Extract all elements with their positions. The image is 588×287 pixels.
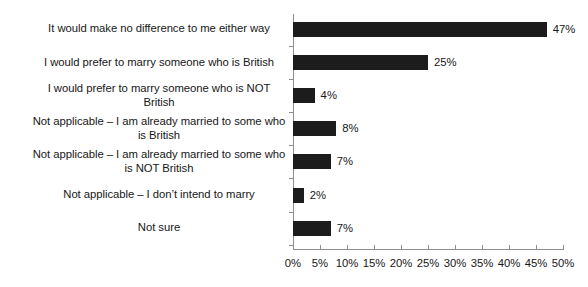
y-axis-tick — [289, 212, 294, 213]
bar-value-label: 25% — [434, 54, 457, 70]
category-label: I would prefer to marry someone who is N… — [29, 81, 289, 109]
x-axis-tick-label: 0% — [285, 257, 301, 270]
bar — [293, 154, 331, 169]
bar-fill — [293, 121, 336, 136]
x-axis-tick-label: 25% — [417, 257, 440, 270]
x-axis-tick — [509, 245, 510, 250]
x-axis-tick — [374, 245, 375, 250]
x-axis-tick — [563, 245, 564, 250]
bar — [293, 22, 547, 37]
x-axis-tick — [536, 245, 537, 250]
bar — [293, 188, 304, 203]
y-axis-tick — [289, 145, 294, 146]
bar-fill — [293, 88, 315, 103]
x-axis-tick-label: 35% — [471, 257, 494, 270]
category-label: Not sure — [29, 220, 289, 234]
bar-value-label: 7% — [337, 153, 353, 169]
bar — [293, 221, 331, 236]
category-label: It would make no difference to me either… — [29, 21, 289, 35]
bar-fill — [293, 154, 331, 169]
category-label: I would prefer to marry someone who is B… — [29, 55, 289, 69]
x-axis-tick-label: 40% — [498, 257, 521, 270]
bar-value-label: 2% — [310, 187, 326, 203]
y-axis-tick — [289, 112, 294, 113]
category-label: Not applicable – I am already married to… — [29, 114, 289, 142]
x-axis-tick-label: 30% — [444, 257, 467, 270]
bar-fill — [293, 188, 304, 203]
bar-value-label: 4% — [321, 87, 337, 103]
bar-fill — [293, 221, 331, 236]
bar-fill — [293, 22, 547, 37]
horizontal-bar-chart: 0%5%10%15%20%25%30%35%40%45%50%47%It wou… — [0, 0, 588, 287]
x-axis-tick — [347, 245, 348, 250]
bar-value-label: 47% — [553, 21, 576, 37]
x-axis-tick — [428, 245, 429, 250]
x-axis-tick — [455, 245, 456, 250]
category-label: Not applicable – I don’t intend to marry — [29, 187, 289, 201]
x-axis-tick-label: 20% — [390, 257, 413, 270]
bar-fill — [293, 55, 428, 70]
x-axis-tick-label: 5% — [312, 257, 328, 270]
y-axis-tick — [289, 46, 294, 47]
bar — [293, 121, 336, 136]
x-axis-tick — [320, 245, 321, 250]
y-axis-tick — [289, 245, 294, 246]
x-axis-tick — [401, 245, 402, 250]
bar-value-label: 7% — [337, 220, 353, 236]
bar — [293, 88, 315, 103]
bar-value-label: 8% — [342, 120, 358, 136]
x-axis-tick-label: 50% — [552, 257, 575, 270]
x-axis-tick-label: 10% — [336, 257, 359, 270]
y-axis-tick — [289, 79, 294, 80]
x-axis-tick-label: 15% — [363, 257, 386, 270]
x-axis-tick — [482, 245, 483, 250]
bar — [293, 55, 428, 70]
x-axis-tick-label: 45% — [525, 257, 548, 270]
y-axis-tick — [289, 178, 294, 179]
category-label: Not applicable – I am already married to… — [29, 147, 289, 175]
